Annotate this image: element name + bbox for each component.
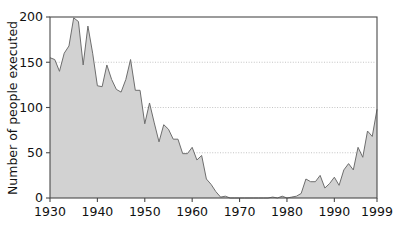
x-tick-label-1940: 1940 — [81, 204, 113, 219]
y-axis-title: Number of people executed — [5, 21, 20, 195]
y-axis-ticks: 050100150200 — [19, 9, 50, 205]
x-tick-label-1999: 1999 — [361, 204, 393, 219]
x-tick-label-1970: 1970 — [224, 204, 256, 219]
chart-figure: 050100150200 193019401950196019701980199… — [0, 0, 396, 245]
y-tick-label-150: 150 — [19, 55, 43, 70]
x-tick-label-1930: 1930 — [34, 204, 66, 219]
x-tick-label-1990: 1990 — [318, 204, 350, 219]
y-tick-label-200: 200 — [19, 9, 43, 24]
y-tick-label-50: 50 — [27, 145, 43, 160]
x-tick-label-1960: 1960 — [176, 204, 208, 219]
x-tick-label-1980: 1980 — [271, 204, 303, 219]
y-tick-label-100: 100 — [19, 100, 43, 115]
x-tick-label-1950: 1950 — [129, 204, 161, 219]
executions-area-chart: 050100150200 193019401950196019701980199… — [0, 0, 396, 245]
x-axis-ticks: 19301940195019601970198019901999 — [34, 198, 393, 219]
